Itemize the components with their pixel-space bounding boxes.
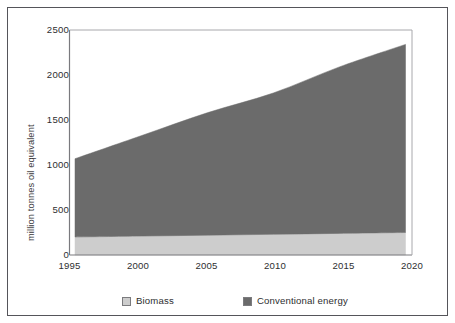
y-tick-label: 0 — [31, 249, 69, 260]
legend-swatch-conventional-energy-icon — [243, 297, 252, 306]
legend-item-biomass: Biomass — [122, 293, 174, 309]
y-tick-0: 0 — [31, 249, 69, 261]
area-series-conventional-energy — [75, 44, 406, 237]
y-tick-label: 1000 — [31, 159, 69, 170]
y-tick-500: 500 — [31, 204, 69, 216]
x-tick-label-2020: 2020 — [389, 260, 435, 271]
y-tick-label: 1500 — [31, 114, 69, 125]
legend-label-biomass: Biomass — [136, 296, 174, 306]
x-tick-label-2015: 2015 — [321, 260, 367, 271]
y-tick-1500: 1500 — [31, 114, 69, 126]
chart-legend: Biomass Conventional energy — [0, 293, 455, 311]
y-tick-label: 500 — [31, 204, 69, 215]
y-tick-label: 2500 — [31, 24, 69, 35]
y-tick-1000: 1000 — [31, 159, 69, 171]
y-tick-2500: 2500 — [31, 24, 69, 36]
legend-item-conventional-energy: Conventional energy — [243, 293, 348, 309]
chart-figure: million tonnes oil equivalent 0500100015… — [0, 0, 455, 323]
chart-plot-container: million tonnes oil equivalent 0500100015… — [0, 0, 455, 323]
y-tick-2000: 2000 — [31, 69, 69, 81]
legend-swatch-biomass-icon — [122, 297, 131, 306]
legend-label-conventional-energy: Conventional energy — [257, 296, 348, 306]
x-tick-label-2010: 2010 — [252, 260, 298, 271]
x-tick-label-2000: 2000 — [115, 260, 161, 271]
x-tick-label-1995: 1995 — [47, 260, 93, 271]
area-series-group — [75, 44, 406, 255]
y-tick-label: 2000 — [31, 69, 69, 80]
x-tick-label-2005: 2005 — [184, 260, 230, 271]
